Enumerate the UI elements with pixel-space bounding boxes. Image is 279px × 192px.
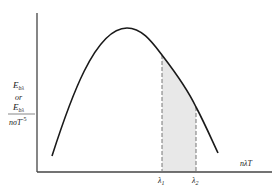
y-label-line1: Ebλ bbox=[13, 81, 24, 91]
shaded-band bbox=[162, 55, 196, 172]
y-label-denominator: nσT-5 bbox=[9, 116, 26, 127]
y-label-E-sub: bλ bbox=[19, 85, 25, 91]
lambda1-sub: 1 bbox=[161, 180, 164, 186]
y-label-numerator: Ebλ bbox=[13, 103, 24, 113]
lambda1-label: λ1 bbox=[158, 177, 164, 186]
x-axis-label: nλT bbox=[240, 160, 252, 168]
y-label-or-text: or bbox=[15, 93, 22, 102]
x-axis-label-text: nλT bbox=[240, 159, 252, 168]
lambda2-label: λ2 bbox=[192, 177, 198, 186]
denominator-text: nσT bbox=[9, 118, 21, 127]
denominator-sup: -5 bbox=[21, 116, 26, 122]
y-label-or: or bbox=[15, 94, 22, 102]
diagram-canvas bbox=[0, 0, 279, 192]
numerator-sub: bλ bbox=[19, 107, 25, 113]
lambda2-sub: 2 bbox=[195, 180, 198, 186]
